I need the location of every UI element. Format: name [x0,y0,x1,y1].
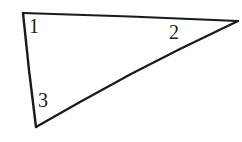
angle-label-3: 3 [38,90,48,110]
angle-label-2: 2 [169,22,179,42]
edge-hypotenuse [36,21,238,127]
edge-top [23,13,238,21]
triangle-figure: 1 2 3 [0,0,242,142]
angle-label-1: 1 [29,16,39,36]
